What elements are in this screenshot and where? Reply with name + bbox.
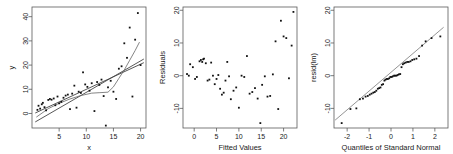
- data-point: [118, 68, 120, 70]
- data-point: [217, 74, 219, 76]
- data-point: [189, 63, 191, 65]
- data-point: [421, 45, 423, 47]
- data-point: [38, 105, 40, 107]
- data-point: [63, 97, 65, 99]
- data-point: [201, 61, 203, 63]
- data-point: [84, 84, 86, 86]
- data-point: [228, 75, 230, 77]
- data-point: [214, 83, 216, 85]
- x-axis-label: Quantiles of Standard Normal: [342, 143, 441, 152]
- data-point: [78, 91, 80, 93]
- x-tick-label: 2: [433, 133, 437, 140]
- data-point: [362, 98, 364, 100]
- panel-1-fit-lines: [35, 42, 144, 122]
- data-point: [283, 36, 285, 38]
- data-point: [413, 58, 415, 60]
- y-tick-label: -10: [324, 103, 331, 113]
- panel-1-svg: 5101520010203040xy: [0, 0, 151, 154]
- data-point: [140, 64, 142, 66]
- y-tick-label: -10: [173, 103, 180, 113]
- data-point: [439, 36, 441, 38]
- data-point: [267, 96, 269, 98]
- data-point: [58, 102, 60, 104]
- data-point: [51, 99, 53, 101]
- y-tick-label: 20: [22, 61, 29, 69]
- data-point: [406, 61, 408, 63]
- data-point: [126, 57, 128, 59]
- panel-2-labels: 05101520-1001020Fitted ValuesResiduals: [158, 6, 288, 152]
- data-point: [380, 87, 382, 89]
- data-point: [259, 122, 261, 124]
- data-point: [221, 94, 223, 96]
- y-tick-label: 20: [173, 6, 180, 14]
- data-point: [98, 84, 100, 86]
- panel-2-svg: 05101520-1001020Fitted ValuesResiduals: [151, 0, 302, 154]
- panel-2-points: [186, 11, 294, 124]
- y-tick-label: 0: [324, 74, 331, 78]
- data-point: [71, 93, 73, 95]
- panel-1-labels: 5101520010203040xy: [7, 13, 145, 152]
- data-point: [42, 102, 44, 104]
- x-tick-label: 5: [215, 133, 219, 140]
- data-point: [69, 108, 71, 110]
- data-point: [194, 78, 196, 80]
- data-point: [188, 75, 190, 77]
- data-point: [431, 37, 433, 39]
- data-point: [39, 108, 41, 110]
- data-point: [288, 77, 290, 79]
- data-point: [382, 83, 384, 85]
- data-point: [212, 75, 214, 77]
- data-point: [60, 101, 62, 103]
- y-tick-label: 20: [324, 6, 331, 14]
- data-point: [132, 96, 134, 98]
- data-point: [196, 76, 198, 78]
- data-point: [223, 92, 225, 94]
- y-tick-label: 10: [22, 85, 29, 93]
- data-point: [37, 109, 39, 111]
- data-point: [86, 86, 88, 88]
- data-point: [203, 58, 205, 60]
- data-point: [359, 98, 361, 100]
- y-axis-label: Residuals: [158, 51, 167, 84]
- data-point: [350, 108, 352, 110]
- data-point: [110, 80, 112, 82]
- panel-3-svg: -2-1012-1001020Quantiles of Standard Nor…: [302, 0, 453, 154]
- data-point: [89, 90, 91, 92]
- panel-3-labels: -2-1012-1001020Quantiles of Standard Nor…: [309, 6, 441, 152]
- data-point: [121, 65, 123, 67]
- data-point: [249, 93, 251, 95]
- data-point: [76, 107, 78, 109]
- data-point: [416, 58, 418, 60]
- data-point: [207, 80, 209, 82]
- x-tick-label: 15: [257, 133, 265, 140]
- data-point: [375, 90, 377, 92]
- y-tick-label: 0: [173, 74, 180, 78]
- data-point: [372, 92, 374, 94]
- data-point: [54, 104, 56, 106]
- data-point: [47, 99, 49, 101]
- data-point: [251, 91, 253, 93]
- data-point: [277, 108, 279, 110]
- data-point: [137, 12, 139, 14]
- data-point: [275, 40, 277, 42]
- data-point: [113, 91, 115, 93]
- data-point: [367, 95, 369, 97]
- y-tick-label: 0: [22, 111, 29, 115]
- data-point: [96, 81, 98, 83]
- data-point: [411, 59, 413, 61]
- data-point: [233, 90, 235, 92]
- y-axis-label: y: [7, 65, 16, 69]
- data-point: [369, 94, 371, 96]
- data-point: [235, 87, 237, 89]
- data-point: [365, 96, 367, 98]
- data-point: [210, 62, 212, 64]
- data-point: [134, 39, 136, 41]
- data-point: [408, 61, 410, 63]
- x-tick-label: -2: [344, 133, 350, 140]
- data-point: [254, 87, 256, 89]
- y-tick-label: 30: [22, 37, 29, 45]
- data-point: [205, 62, 207, 64]
- data-point: [216, 78, 218, 80]
- data-point: [208, 79, 210, 81]
- data-point: [341, 122, 343, 124]
